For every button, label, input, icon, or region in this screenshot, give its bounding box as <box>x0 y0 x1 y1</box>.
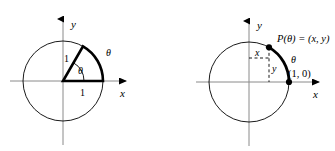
left-base-label: 1 <box>80 87 85 98</box>
left-x-axis-label: x <box>119 87 125 99</box>
left-interior-theta-label: θ <box>78 65 83 76</box>
right-y-leg-label: y <box>271 63 277 74</box>
left-radius-label: 1 <box>64 53 69 64</box>
trigonometry-figure: y x 1 1 θ θ y x P( <box>0 0 335 151</box>
right-x-leg-label: x <box>254 47 260 58</box>
right-x-axis-label: x <box>312 88 318 100</box>
right-point-label: P(θ) = (x, y) <box>276 33 330 45</box>
right-point-one-zero-marker <box>286 79 292 85</box>
left-panel: y x 1 1 θ θ <box>10 18 126 145</box>
left-arc-theta-label: θ <box>106 47 111 58</box>
left-y-axis-label: y <box>70 18 76 30</box>
right-point-p-marker <box>266 44 272 50</box>
figure-canvas: y x 1 1 θ θ y x P( <box>0 0 335 151</box>
right-one-zero-label: (1, 0) <box>288 68 311 80</box>
right-panel: y x P(θ) = (x, y) x y θ (1, 0) <box>196 19 330 146</box>
right-y-axis-label: y <box>256 19 262 31</box>
right-arc-theta-label: θ <box>291 54 296 65</box>
